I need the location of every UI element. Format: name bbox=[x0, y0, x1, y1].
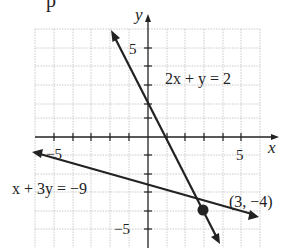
tick-label-x-5: 5 bbox=[236, 147, 244, 163]
axes bbox=[35, 14, 279, 248]
linear-system-graph: p y x −5 5 5 −5 2x + y = 2 x + 3y = −9 (… bbox=[0, 0, 286, 248]
tick-label-y-neg5: −5 bbox=[114, 221, 130, 237]
intersection-label: (3, −4) bbox=[229, 193, 273, 211]
y-axis-label: y bbox=[133, 5, 143, 24]
intersection-point bbox=[198, 205, 209, 216]
equation-label-2: x + 3y = −9 bbox=[12, 180, 87, 198]
equation-label-1: 2x + y = 2 bbox=[165, 70, 231, 88]
x-axis-label: x bbox=[267, 138, 276, 157]
tick-label-y-5: 5 bbox=[129, 41, 137, 57]
partial-heading-glyph: p bbox=[46, 0, 56, 12]
